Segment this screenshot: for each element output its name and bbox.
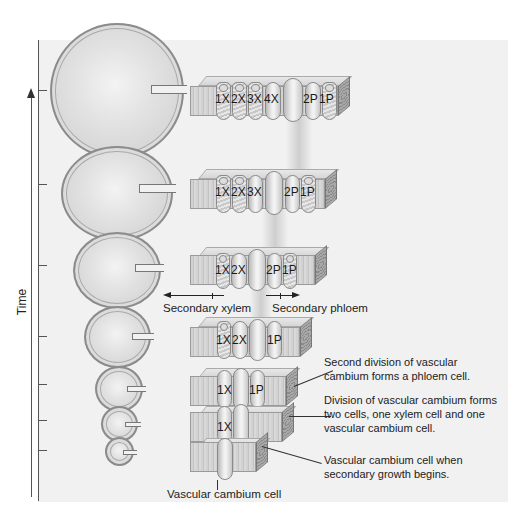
wedge-cut	[127, 386, 146, 392]
cell-label: 2X	[232, 333, 247, 347]
cell-label: 2X	[231, 185, 246, 199]
wedge-cut	[151, 85, 187, 94]
annotation-first-division: Division of vascular cambium forms two c…	[324, 393, 497, 435]
timeline-tick	[39, 450, 47, 451]
cell-label: 1P	[267, 333, 282, 347]
cambium-cell	[265, 171, 283, 215]
stage-4-block: 1X 2X 1P	[190, 315, 300, 357]
stage-2-block: 1X	[190, 406, 282, 442]
cell-label: 1P	[249, 383, 264, 397]
annotation-line: cambium forms a phloem cell.	[324, 369, 470, 383]
stage-5-block: 1X 2X 2P 1P	[190, 245, 315, 285]
cell-label: 1P	[319, 92, 334, 106]
cambium-cell	[249, 319, 266, 361]
marker-tick	[212, 293, 213, 299]
cell-label: 2P	[284, 185, 299, 199]
cell-label: 1X	[215, 263, 230, 277]
cell-label: 1X	[217, 383, 232, 397]
wedge-cut	[125, 422, 141, 427]
timeline-tick	[39, 184, 47, 185]
cell-label: 1X	[215, 92, 230, 106]
timeline-axis	[38, 40, 39, 501]
annotation-line: two cells, one xylem cell and one	[324, 407, 497, 421]
cell-label: 3X	[247, 92, 262, 106]
arrow-up-icon	[27, 88, 35, 98]
marker-tick	[280, 293, 281, 299]
xylem-direction-line	[168, 295, 224, 296]
annotation-line: Second division of vascular	[324, 355, 470, 369]
arrow-right-icon	[292, 292, 300, 298]
cell-label: 4X	[264, 92, 279, 106]
wedge-cut	[139, 184, 176, 193]
annotation-initial-cell: Vascular cambium cell when secondary gro…	[324, 453, 463, 481]
cell-label: 1X	[217, 420, 232, 434]
trunk-cross-section-5	[73, 232, 161, 309]
annotation-line: Vascular cambium cell when	[324, 453, 463, 467]
cell-label: 2P	[303, 92, 318, 106]
cell-label: 1X	[216, 333, 231, 347]
trunk-cross-section-6	[61, 146, 173, 241]
cell-label: 2X	[231, 263, 246, 277]
wedge-cut	[123, 450, 137, 455]
timeline-tick	[39, 384, 47, 385]
secondary-phloem-label: Secondary phloem	[272, 301, 368, 315]
annotation-line: vascular cambium cell.	[324, 421, 497, 435]
stage-6-block: 1X 2X 3X 2P 1P	[190, 165, 325, 209]
wedge-cut	[132, 333, 154, 340]
trunk-cross-section-4	[84, 306, 151, 368]
timeline-tick	[39, 90, 47, 91]
cambium-cell	[217, 438, 233, 480]
cambium-cell	[283, 78, 303, 122]
annotation-line: Division of vascular cambium forms	[324, 393, 497, 407]
cell-label: 1P	[300, 185, 315, 199]
timeline-tick	[39, 420, 47, 421]
secondary-xylem-label: Secondary xylem	[163, 301, 251, 315]
stage-1-block	[190, 438, 256, 472]
cell-label: 2X	[231, 92, 246, 106]
cell-label: 1P	[282, 263, 297, 277]
trunk-cross-section-7	[50, 23, 184, 159]
annotation-second-division: Second division of vascular cambium form…	[324, 355, 470, 383]
vascular-cambium-cell-label: Vascular cambium cell	[167, 487, 281, 501]
stage-3-block: 1X 1P	[190, 368, 286, 406]
arrow-left-icon	[163, 292, 171, 298]
stage-7-block: 1X 2X 3X 4X 2P 1P	[190, 72, 338, 116]
time-arrow-line	[31, 97, 32, 497]
timeline-tick	[39, 336, 47, 337]
cell-label: 1X	[215, 185, 230, 199]
timeline-tick	[39, 265, 47, 266]
cambium-cell	[248, 249, 266, 291]
cell-label: 2P	[266, 263, 281, 277]
wedge-cut	[135, 264, 164, 272]
time-axis-label: Time	[15, 282, 29, 322]
annotation-line: secondary growth begins.	[324, 467, 463, 481]
cell-label: 3X	[247, 185, 262, 199]
trunk-cross-section-1	[105, 437, 134, 466]
